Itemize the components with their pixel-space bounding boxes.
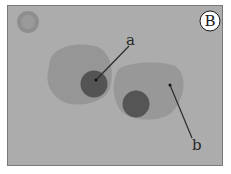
nucleus-left <box>81 71 108 98</box>
nucleus-right <box>123 91 150 118</box>
panel-label: B <box>204 12 215 30</box>
label-a: a <box>126 31 135 49</box>
small-cell <box>17 11 39 33</box>
panel-label-badge: B <box>200 11 220 31</box>
cell-diagram: a b B <box>0 0 231 174</box>
label-b: b <box>192 136 202 154</box>
